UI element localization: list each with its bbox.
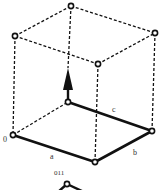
vertex-bottom-back [65, 99, 70, 104]
vertical-edges-dashed [13, 6, 155, 162]
vertex-bottom-right [149, 128, 154, 133]
unit-cell-diagram: 0 a b c 011 [0, 0, 162, 190]
arrow-up-icon [63, 68, 73, 101]
origin-label: 0 [3, 135, 7, 144]
edge-a-label: a [50, 152, 54, 161]
vertex-bottom-front [92, 159, 97, 164]
caption-label: 011 [54, 169, 65, 177]
hidden-edge-dashed [13, 102, 68, 135]
vertex-origin [10, 132, 15, 137]
partial-next-diagram [58, 181, 84, 190]
edge-b-label: b [133, 148, 137, 157]
edge-b [95, 131, 152, 162]
vertex-top-front [95, 61, 100, 66]
vertex-top-back [68, 3, 73, 8]
top-face-dashed [15, 6, 155, 64]
bottom-face-solid [13, 102, 152, 162]
vertex-top-right [152, 30, 157, 35]
vertex-top-left [12, 33, 17, 38]
edge-c [68, 102, 152, 131]
edge-c-label: c [112, 105, 116, 114]
edge-a [13, 135, 95, 162]
